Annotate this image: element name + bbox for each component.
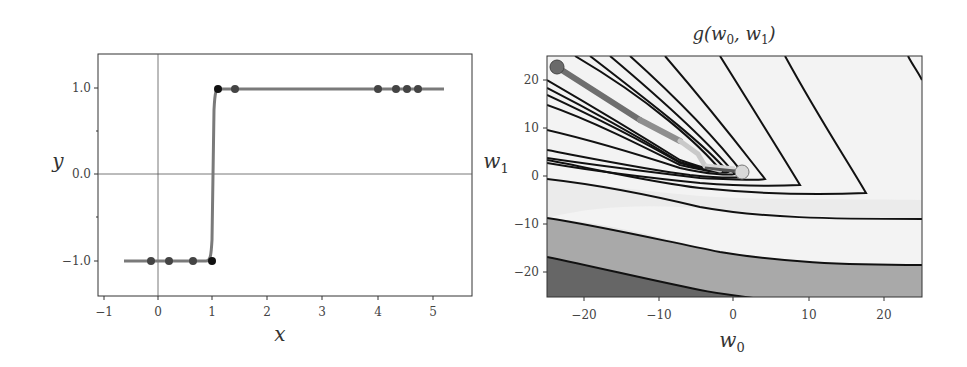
y-tick-label: 0 — [531, 169, 539, 183]
y-tick-label: 20 — [524, 73, 539, 87]
x-axis-label: w0 — [719, 328, 744, 355]
y-axis-label: y — [51, 149, 64, 173]
x-tick-label: 10 — [801, 308, 816, 322]
x-tick-label: 0 — [154, 305, 162, 319]
x-tick-label: −20 — [571, 308, 596, 322]
y-tick-label: 0.0 — [72, 167, 91, 181]
y-tick-label: 1.0 — [72, 81, 91, 95]
x-tick-label: −1 — [95, 305, 113, 319]
right-y-ticks — [543, 80, 547, 272]
x-tick-label: 0 — [729, 308, 737, 322]
y-tick-label: −20 — [514, 265, 539, 279]
chart-title: g(w0, w1) — [692, 23, 775, 47]
x-tick-label: 2 — [263, 305, 271, 319]
left-y-ticks — [94, 88, 98, 261]
contour-fill — [547, 56, 922, 297]
x-tick-label: 3 — [318, 305, 326, 319]
right-x-ticks — [584, 297, 884, 301]
figure: −1 0 1 2 3 4 5 1.0 0.0 −1.0 x y — [0, 0, 967, 367]
y-tick-label: 10 — [524, 121, 539, 135]
x-axis-label: x — [274, 322, 285, 346]
x-tick-label: −10 — [646, 308, 671, 322]
left-x-ticks — [104, 296, 433, 300]
y-axis-label: w1 — [483, 149, 508, 176]
x-tick-label: 20 — [876, 308, 891, 322]
left-plot: −1 0 1 2 3 4 5 1.0 0.0 −1.0 x y — [51, 54, 472, 346]
x-tick-label: 4 — [374, 305, 382, 319]
x-tick-label: 1 — [208, 305, 216, 319]
y-tick-label: −1.0 — [62, 254, 91, 268]
y-tick-label: −10 — [514, 217, 539, 231]
start-point-marker — [550, 60, 564, 74]
right-plot: −20 −10 0 10 20 20 10 0 −10 −20 g(w0, w1… — [483, 23, 922, 355]
end-point-marker — [735, 165, 749, 179]
x-tick-label: 5 — [429, 305, 437, 319]
